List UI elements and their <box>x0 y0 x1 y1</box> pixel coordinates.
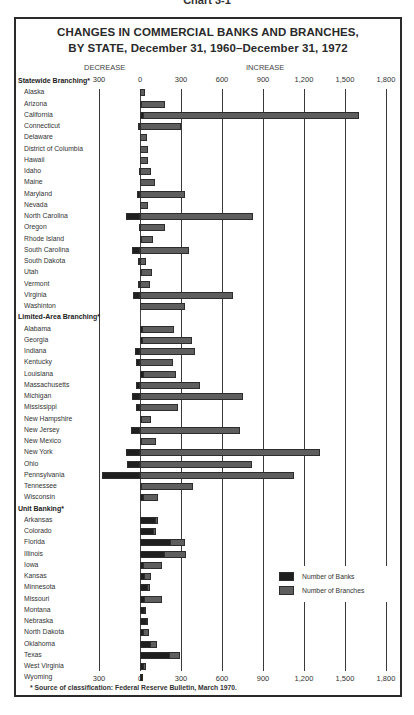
bar-branches <box>140 258 146 265</box>
legend-item-branches: Number of Branches <box>279 586 364 595</box>
row-label: Washinton <box>24 302 56 309</box>
row-label: Montana <box>24 606 50 613</box>
group-label: Limited-Area Branching* <box>18 313 100 320</box>
bar-banks <box>138 258 140 265</box>
bar-branches <box>140 371 176 378</box>
bar-branches <box>140 89 145 96</box>
decrease-label: DECREASE <box>84 63 125 72</box>
bar-banks <box>127 461 140 468</box>
row-label: Arkansas <box>24 516 52 523</box>
bar-banks <box>135 348 140 355</box>
bar-banks <box>140 494 144 501</box>
row-label: Arizona <box>24 100 47 107</box>
chart-frame: CHANGES IN COMMERCIAL BANKS AND BRANCHES… <box>14 17 402 697</box>
bar-branches <box>140 326 174 333</box>
bar-banks <box>138 281 140 288</box>
bar-banks <box>140 112 144 119</box>
row-label: Kansas <box>24 572 47 579</box>
bar-branches <box>140 438 156 445</box>
row-label: North Dakota <box>24 628 64 635</box>
x-tick-label-top: 300 <box>93 75 106 84</box>
bar-banks <box>132 393 140 400</box>
bar-banks <box>140 326 143 333</box>
row-label: Indiana <box>24 347 46 354</box>
bar-banks <box>139 168 141 175</box>
bar-branches <box>140 224 165 231</box>
row-label: South Carolina <box>24 246 69 253</box>
bar-branches <box>140 292 233 299</box>
row-label: Louisiana <box>24 370 53 377</box>
bar-banks <box>140 236 142 243</box>
row-label: Wisconsin <box>24 493 55 500</box>
legend-swatch-branches <box>279 586 294 595</box>
row-label: Minnesota <box>24 583 55 590</box>
bar-banks <box>140 528 154 535</box>
bar-branches <box>140 191 185 198</box>
group-label: Unit Banking* <box>18 505 64 512</box>
row-label: New Jersey <box>24 426 60 433</box>
row-label: Missouri <box>24 595 49 602</box>
bar-banks <box>140 607 145 614</box>
bar-banks <box>131 427 140 434</box>
x-tick-label-bottom: 1,800 <box>377 674 396 683</box>
x-tick-label-bottom: 1,500 <box>336 674 355 683</box>
bar-banks <box>140 101 142 108</box>
row-label: Georgia <box>24 336 48 343</box>
row-label: Tennessee <box>24 482 57 489</box>
row-label: Maine <box>24 178 43 185</box>
row-label: Wyoming <box>24 673 52 680</box>
bar-banks <box>140 573 145 580</box>
legend-label-banks: Number of Banks <box>302 573 355 580</box>
increase-label: INCREASE <box>246 63 284 72</box>
bar-branches <box>140 134 147 141</box>
row-label: Rhode Island <box>24 235 64 242</box>
row-label: Vermont <box>24 280 49 287</box>
bar-banks <box>132 247 140 254</box>
bar-branches <box>140 427 240 434</box>
row-label: North Carolina <box>24 212 68 219</box>
row-label: Alabama <box>24 325 51 332</box>
bar-banks <box>140 551 165 558</box>
x-tick-label-top: 600 <box>216 75 229 84</box>
bar-branches <box>140 146 148 153</box>
bar-branches <box>140 472 294 479</box>
bar-banks <box>140 596 145 603</box>
bar-banks <box>139 224 141 231</box>
row-label: Nebraska <box>24 617 53 624</box>
group-label: Statewide Branching* <box>18 77 90 84</box>
bar-branches <box>140 359 173 366</box>
bar-banks <box>140 371 144 378</box>
row-label: South Dakota <box>24 257 65 264</box>
bar-banks <box>140 618 147 625</box>
row-label: California <box>24 111 53 118</box>
bar-branches <box>140 281 150 288</box>
gridline <box>222 89 223 671</box>
bar-banks <box>133 292 140 299</box>
legend: Number of Banks Number of Branches <box>273 566 393 602</box>
chart-title-line-2: BY STATE, December 31, 1960–December 31,… <box>16 42 400 54</box>
x-tick-label-bottom: 300 <box>175 674 188 683</box>
row-label: Florida <box>24 538 45 545</box>
x-tick-label-bottom: 900 <box>257 674 270 683</box>
legend-item-banks: Number of Banks <box>279 572 355 581</box>
row-label: Virginia <box>24 291 47 298</box>
row-label: Illinois <box>24 550 43 557</box>
chart-caption: Chart 3-1 <box>0 0 414 6</box>
row-label: Connecticut <box>24 122 60 129</box>
bar-banks <box>140 562 144 569</box>
bar-banks <box>140 337 143 344</box>
row-label: Hawaii <box>24 156 44 163</box>
row-label: Mississippi <box>24 403 57 410</box>
row-label: New York <box>24 448 53 455</box>
bar-branches <box>140 461 252 468</box>
row-label: New Hampshire <box>24 415 72 422</box>
bar-branches <box>140 112 359 119</box>
bar-banks <box>140 416 142 423</box>
bar-banks <box>140 539 171 546</box>
chart-title-line-1: CHANGES IN COMMERCIAL BANKS AND BRANCHES… <box>16 26 400 38</box>
bar-banks <box>102 472 140 479</box>
row-label: Colorado <box>24 527 52 534</box>
legend-label-branches: Number of Branches <box>302 587 364 594</box>
bar-branches <box>140 449 320 456</box>
bar-banks <box>136 359 140 366</box>
